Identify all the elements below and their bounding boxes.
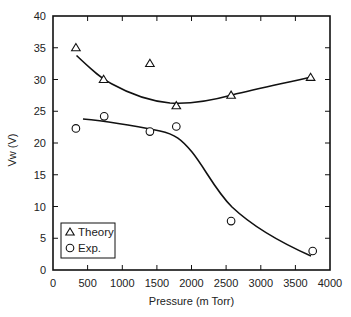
y-tick-0: 0 xyxy=(40,264,46,276)
exp-point xyxy=(146,128,154,136)
y-tick-5: 5 xyxy=(40,232,46,244)
y-tick-40: 40 xyxy=(34,10,46,22)
legend: Theory Exp. xyxy=(61,223,115,258)
chart: 0 5 10 15 20 25 30 35 40 0 500 1000 1500… xyxy=(0,0,351,317)
legend-label-exp: Exp. xyxy=(78,242,101,254)
x-axis-title: Pressure (m Torr) xyxy=(149,295,234,307)
x-tick-500: 500 xyxy=(78,277,96,289)
exp-fit-curve xyxy=(83,119,311,256)
y-tick-10: 10 xyxy=(34,201,46,213)
y-tick-35: 35 xyxy=(34,42,46,54)
x-tick-3500: 3500 xyxy=(283,277,307,289)
legend-circle-icon xyxy=(66,244,74,252)
y-tick-labels: 0 5 10 15 20 25 30 35 40 xyxy=(34,10,46,276)
x-tick-labels: 0 500 1000 1500 2000 2500 3000 3500 4000 xyxy=(50,277,342,289)
theory-point xyxy=(146,59,155,66)
theory-fit-curve xyxy=(77,56,312,104)
theory-points xyxy=(72,44,315,109)
x-tick-3000: 3000 xyxy=(249,277,273,289)
x-tick-4000: 4000 xyxy=(318,277,342,289)
y-tick-30: 30 xyxy=(34,74,46,86)
legend-label-theory: Theory xyxy=(78,226,114,238)
y-tick-20: 20 xyxy=(34,137,46,149)
exp-point xyxy=(72,125,80,133)
x-tick-1000: 1000 xyxy=(110,277,134,289)
exp-point xyxy=(309,247,317,255)
x-tick-2500: 2500 xyxy=(214,277,238,289)
theory-point xyxy=(72,44,81,51)
y-axis-title: Vw (V) xyxy=(6,134,18,167)
x-tick-0: 0 xyxy=(50,277,56,289)
y-tick-15: 15 xyxy=(34,169,46,181)
theory-point xyxy=(306,73,315,80)
exp-point xyxy=(227,217,235,225)
exp-point xyxy=(173,123,181,131)
y-axis-ticks xyxy=(53,48,330,239)
x-tick-1500: 1500 xyxy=(145,277,169,289)
x-tick-2000: 2000 xyxy=(179,277,203,289)
exp-point xyxy=(100,113,108,121)
y-tick-25: 25 xyxy=(34,105,46,117)
